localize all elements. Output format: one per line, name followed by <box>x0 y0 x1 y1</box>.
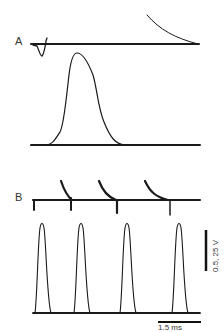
panel-a-decay-curve <box>147 15 198 44</box>
panel-a-pulse <box>45 53 125 145</box>
panel-b-transient-2 <box>99 181 116 200</box>
panel-a-label: A <box>15 35 22 47</box>
panel-b-label: B <box>15 191 22 203</box>
panel-b-transient-3 <box>145 181 168 200</box>
panel-b-pulse-1 <box>35 224 51 314</box>
panel-a <box>31 15 200 145</box>
panel-b-transient-1 <box>61 181 72 200</box>
panel-b-pulse-2 <box>74 224 90 314</box>
panel-a-onset-artifact <box>33 38 47 56</box>
horizontal-scale-label: 1.5 ms <box>158 323 182 332</box>
panel-b-pulse-3 <box>120 224 136 314</box>
vertical-scale-label: 0.5, 25 V <box>211 240 220 272</box>
figure-canvas <box>0 0 224 332</box>
panel-b-pulse-4 <box>172 224 188 314</box>
panel-b <box>33 181 200 313</box>
